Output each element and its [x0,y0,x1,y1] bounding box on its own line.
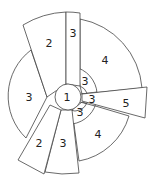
label-bottom-right-sector: 4 [95,128,102,141]
label-center: 1 [64,91,71,104]
label-top-left-wedge: 2 [46,37,53,50]
label-top-vertical-wedge: 3 [70,27,77,40]
top-vertical-wedge [66,12,80,86]
label-inner-right: 3 [89,93,96,106]
label-top-right-sector: 4 [102,54,109,67]
label-bottom-wedge: 3 [60,137,67,150]
label-right-wedge: 5 [123,97,130,110]
label-inner-upper-right: 3 [82,75,89,88]
sector-diagram: 1 2 3 4 3 3 3 5 4 3 2 3 [0,0,162,183]
label-bottom-left-wedge: 2 [36,137,43,150]
label-left-sector: 3 [26,91,33,104]
label-inner-lower-right: 3 [77,106,84,119]
